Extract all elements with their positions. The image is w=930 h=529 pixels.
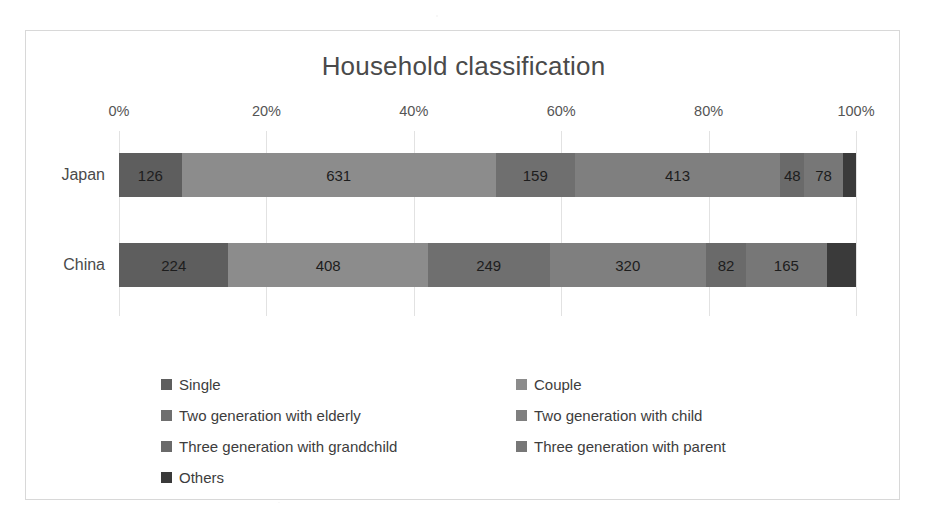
bar-row: Japan1266311594134878 (119, 153, 856, 197)
legend-item[interactable]: Others (161, 469, 516, 486)
legend-row: Two generation with elderlyTwo generatio… (161, 407, 861, 424)
legend-swatch-icon (161, 472, 172, 483)
bar-segment[interactable] (827, 243, 856, 287)
legend-swatch-icon (161, 379, 172, 390)
bar-segment-value: 413 (665, 167, 690, 184)
bar-segment[interactable]: 159 (496, 153, 575, 197)
x-axis-tick-label: 0% (109, 103, 130, 119)
legend-label: Three generation with parent (534, 438, 726, 455)
bar-segment[interactable]: 82 (706, 243, 746, 287)
x-axis-tick-label: 20% (252, 103, 281, 119)
legend-label: Others (179, 469, 224, 486)
bar-segment-value: 159 (523, 167, 548, 184)
bar-segment-value: 48 (784, 167, 801, 184)
bar-segment-value: 82 (718, 257, 735, 274)
bar-segment[interactable]: 320 (550, 243, 706, 287)
legend-row: Three generation with grandchildThree ge… (161, 438, 861, 455)
legend-swatch-icon (516, 410, 527, 421)
bar-segment-value: 408 (316, 257, 341, 274)
bar-segment[interactable]: 126 (119, 153, 182, 197)
bar-segment-value: 631 (326, 167, 351, 184)
legend-item[interactable]: Couple (516, 376, 582, 393)
bar-segment[interactable] (843, 153, 856, 197)
x-axis-tick-label: 40% (399, 103, 428, 119)
legend-item[interactable]: Three generation with grandchild (161, 438, 516, 455)
legend-item[interactable]: Three generation with parent (516, 438, 726, 455)
legend-swatch-icon (161, 441, 172, 452)
legend-item[interactable]: Single (161, 376, 516, 393)
chart-legend: SingleCoupleTwo generation with elderlyT… (161, 376, 861, 500)
bar-segment-value: 320 (615, 257, 640, 274)
bar-segment[interactable]: 631 (182, 153, 496, 197)
gridline (856, 131, 857, 316)
x-axis-tick-label: 80% (694, 103, 723, 119)
category-label-japan: Japan (61, 166, 105, 184)
bar-segment[interactable]: 224 (119, 243, 228, 287)
category-label-china: China (63, 256, 105, 274)
bar-segment-value: 78 (815, 167, 832, 184)
legend-swatch-icon (161, 410, 172, 421)
bar-segment[interactable]: 249 (428, 243, 550, 287)
bar-segment-value: 224 (161, 257, 186, 274)
chart-title: Household classification (26, 51, 901, 82)
legend-row: SingleCouple (161, 376, 861, 393)
legend-label: Two generation with child (534, 407, 702, 424)
chart-frame: Household classification 0%20%40%60%80%1… (25, 30, 900, 500)
legend-item[interactable]: Two generation with elderly (161, 407, 516, 424)
legend-label: Two generation with elderly (179, 407, 361, 424)
legend-swatch-icon (516, 441, 527, 452)
x-axis-tick-label: 100% (837, 103, 874, 119)
bar-segment[interactable]: 78 (804, 153, 843, 197)
x-axis-tick-label: 60% (547, 103, 576, 119)
legend-label: Three generation with grandchild (179, 438, 397, 455)
legend-item[interactable]: Two generation with child (516, 407, 702, 424)
legend-label: Single (179, 376, 221, 393)
bar-segment[interactable]: 408 (228, 243, 427, 287)
plot-area: 0%20%40%60%80%100% Japan1266311594134878… (119, 131, 856, 316)
legend-swatch-icon (516, 379, 527, 390)
bar-segment-value: 126 (138, 167, 163, 184)
legend-label: Couple (534, 376, 582, 393)
bar-segment[interactable]: 165 (746, 243, 827, 287)
bar-segment-value: 165 (774, 257, 799, 274)
legend-row: Others (161, 469, 861, 486)
bar-row: China22440824932082165 (119, 243, 856, 287)
bar-segment[interactable]: 48 (780, 153, 804, 197)
bar-segment-value: 249 (476, 257, 501, 274)
bar-segment[interactable]: 413 (575, 153, 781, 197)
